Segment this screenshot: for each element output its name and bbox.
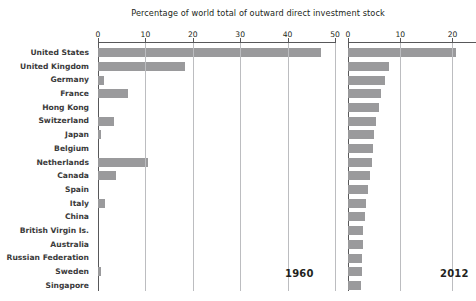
- bar-group-2012: [348, 46, 476, 292]
- bar-row: [98, 46, 335, 60]
- x-axis-ticklabels-1960: 01020304050: [98, 30, 335, 42]
- category-label: Spain: [0, 183, 93, 197]
- bar: [98, 62, 185, 71]
- chart-title: Percentage of world total of outward dir…: [0, 8, 476, 18]
- bar-row: [348, 87, 476, 101]
- x-tick-mark: [98, 38, 99, 43]
- category-label: Hong Kong: [0, 101, 93, 115]
- category-label: Singapore: [0, 279, 93, 293]
- category-label: Australia: [0, 238, 93, 252]
- bar: [348, 117, 376, 126]
- bar: [348, 62, 389, 71]
- bar: [348, 89, 381, 98]
- x-tick-mark: [193, 38, 194, 43]
- category-label: Japan: [0, 128, 93, 142]
- bar: [98, 76, 104, 85]
- year-label-1960: 1960: [285, 268, 314, 279]
- category-label: Russian Federation: [0, 251, 93, 265]
- bar: [348, 240, 363, 249]
- bar-row: [348, 73, 476, 87]
- gridline: [240, 43, 241, 291]
- bar-row: [98, 73, 335, 87]
- bar: [98, 89, 128, 98]
- bar: [98, 158, 148, 167]
- bar-row: [348, 183, 476, 197]
- bar-row: [348, 101, 476, 115]
- bar-row: [98, 87, 335, 101]
- bar-row: [98, 251, 335, 265]
- category-label: Canada: [0, 169, 93, 183]
- bar: [348, 254, 362, 263]
- bar: [348, 281, 361, 290]
- bar: [348, 171, 370, 180]
- year-label-2012: 2012: [440, 268, 469, 279]
- x-tick-mark: [452, 38, 453, 43]
- category-label: United States: [0, 46, 93, 60]
- bar: [348, 199, 366, 208]
- bar-row: [98, 238, 335, 252]
- category-label-column: United StatesUnited KingdomGermanyFrance…: [0, 46, 93, 292]
- gridline: [145, 43, 146, 291]
- bar: [348, 103, 379, 112]
- bar-row: [98, 224, 335, 238]
- bar: [348, 158, 372, 167]
- bar-row: [348, 156, 476, 170]
- bar-row: [98, 156, 335, 170]
- bar: [98, 199, 105, 208]
- bar: [348, 76, 385, 85]
- category-label: Switzerland: [0, 114, 93, 128]
- bar: [98, 267, 101, 276]
- bar-row: [98, 60, 335, 74]
- x-tick-mark: [240, 38, 241, 43]
- bar-row: [98, 169, 335, 183]
- bar-row: [98, 210, 335, 224]
- gridline: [452, 43, 453, 291]
- chart-panel-1960: 01020304050: [98, 30, 335, 42]
- bar-row: [348, 169, 476, 183]
- category-label: Italy: [0, 197, 93, 211]
- gridline: [400, 43, 401, 291]
- gridline: [193, 43, 194, 291]
- bar: [98, 171, 116, 180]
- x-tick-mark: [335, 38, 336, 43]
- gridline: [335, 43, 336, 291]
- plot-area-1960: [98, 43, 335, 295]
- bar: [98, 130, 101, 139]
- bar-row: [348, 224, 476, 238]
- category-label: Netherlands: [0, 156, 93, 170]
- category-label: United Kingdom: [0, 60, 93, 74]
- bar: [348, 185, 368, 194]
- bar-row: [98, 279, 335, 293]
- bar-group-1960: [98, 46, 335, 292]
- bar-row: [348, 197, 476, 211]
- bar-row: [348, 60, 476, 74]
- x-tick-mark: [288, 38, 289, 43]
- x-tick-mark: [348, 38, 349, 43]
- bar: [348, 144, 373, 153]
- bar-row: [98, 142, 335, 156]
- bar-row: [348, 251, 476, 265]
- category-label: France: [0, 87, 93, 101]
- bar-row: [98, 183, 335, 197]
- bar-row: [348, 279, 476, 293]
- bar-row: [348, 210, 476, 224]
- category-label: British Virgin Is.: [0, 224, 93, 238]
- bar-row: [348, 46, 476, 60]
- bar-row: [348, 114, 476, 128]
- category-label: Germany: [0, 73, 93, 87]
- category-label: Belgium: [0, 142, 93, 156]
- bar-row: [98, 114, 335, 128]
- figure-root: Percentage of world total of outward dir…: [0, 0, 476, 301]
- x-tick-mark: [145, 38, 146, 43]
- bar-row: [348, 128, 476, 142]
- gridline: [288, 43, 289, 291]
- bar-row: [98, 101, 335, 115]
- bar: [98, 117, 114, 126]
- bar-row: [348, 142, 476, 156]
- chart-panel-2012: 01020: [348, 30, 476, 42]
- category-label: Sweden: [0, 265, 93, 279]
- plot-area-2012: [348, 43, 476, 295]
- category-label: China: [0, 210, 93, 224]
- x-tick-mark: [400, 38, 401, 43]
- bar: [348, 130, 374, 139]
